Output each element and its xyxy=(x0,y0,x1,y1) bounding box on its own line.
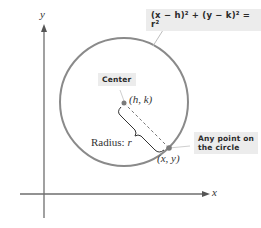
y-axis-arrow-icon xyxy=(41,24,47,32)
x-axis-arrow-icon xyxy=(202,191,210,197)
center-point xyxy=(122,101,127,106)
point-leader-line xyxy=(169,146,190,148)
radius-symbol: r xyxy=(127,136,131,148)
diagram-graphics xyxy=(0,0,261,228)
x-axis-label: x xyxy=(212,186,217,198)
point-coordinates: (x, y) xyxy=(157,152,180,164)
circle-point xyxy=(166,145,172,151)
equation-callout: (x − h)² + (y − k)² = r² xyxy=(146,9,261,31)
circle-equation-diagram: y x (x − h)² + (y − k)² = r² Center (h, … xyxy=(0,0,261,228)
center-leader-line xyxy=(120,90,124,101)
y-axis-label: y xyxy=(40,8,45,20)
center-callout: Center xyxy=(98,73,136,86)
radius-label: Radius: r xyxy=(91,136,132,148)
point-callout: Any point on the circle xyxy=(194,132,258,154)
point-callout-line2: the circle xyxy=(198,143,254,152)
center-coordinates: (h, k) xyxy=(129,93,152,105)
radius-label-text: Radius: xyxy=(91,136,127,148)
point-callout-line1: Any point on xyxy=(198,134,254,143)
